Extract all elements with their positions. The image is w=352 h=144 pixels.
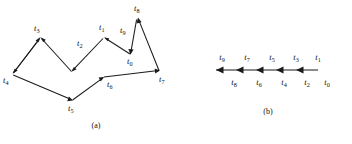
axis-arrowhead-2 [236, 67, 244, 74]
segment-t6 [73, 77, 105, 100]
axis-arrowhead-3 [256, 67, 264, 74]
label-t9: t9 [120, 25, 125, 36]
label-b-t6: t6 [256, 77, 261, 88]
panel-b: t9 t7 t5 t3 t1 t8 t6 t4 t2 t0 (b) [216, 52, 330, 116]
segment-t4 [13, 40, 40, 74]
segment-t1 [104, 37, 130, 54]
label-t7: t7 [159, 74, 164, 85]
arrowhead-t5 [67, 97, 73, 102]
segment-t1-line [105, 38, 130, 54]
label-t6: t6 [107, 79, 112, 90]
figure-root: t3 t4 t2 t1 t9 t8 t0 t7 t6 t5 (a) t9 t7 [0, 0, 352, 144]
figure-svg: t3 t4 t2 t1 t9 t8 t0 t7 t6 t5 (a) t9 t7 [0, 0, 352, 144]
label-b-t9: t9 [219, 52, 224, 63]
label-b-t2: t2 [304, 77, 309, 88]
label-b-t1: t1 [315, 52, 320, 63]
segment-t6-line [73, 78, 103, 100]
segment-t8 [137, 18, 160, 71]
label-b-t5: t5 [269, 52, 274, 63]
label-t4: t4 [3, 75, 8, 86]
label-t2: t2 [77, 38, 82, 49]
arrowhead-t8 [137, 18, 142, 24]
axis-arrowhead-5 [296, 67, 304, 74]
axis-arrowhead-1 [216, 67, 224, 74]
label-b-t7: t7 [244, 52, 249, 63]
label-t8: t8 [134, 3, 139, 14]
label-t5: t5 [68, 103, 73, 114]
label-b-t0: t0 [324, 77, 329, 88]
caption-b: (b) [263, 107, 273, 116]
label-t0: t0 [127, 56, 132, 67]
label-b-t8: t8 [231, 77, 236, 88]
segment-t9 [128, 20, 136, 55]
arrowhead-t3-inbound [41, 37, 46, 42]
segment-t4-line [14, 40, 39, 73]
segment-t5 [13, 75, 73, 101]
segment-t2-upper-line [42, 39, 72, 72]
axis-arrowhead-4 [276, 67, 284, 74]
segment-t9-line [131, 20, 137, 53]
segment-t2-upper [41, 37, 72, 71]
segment-t7 [104, 69, 160, 77]
segment-t5-line [13, 75, 71, 100]
segment-t7-line [104, 71, 158, 77]
caption-a: (a) [92, 121, 101, 130]
label-t3: t3 [34, 23, 39, 34]
label-b-t4: t4 [281, 77, 286, 88]
arrowhead-t7 [155, 69, 160, 74]
label-b-t3: t3 [293, 52, 298, 63]
panel-a: t3 t4 t2 t1 t9 t8 t0 t7 t6 t5 (a) [3, 3, 164, 130]
label-t1: t1 [99, 22, 104, 33]
segment-t8-line [139, 20, 159, 71]
